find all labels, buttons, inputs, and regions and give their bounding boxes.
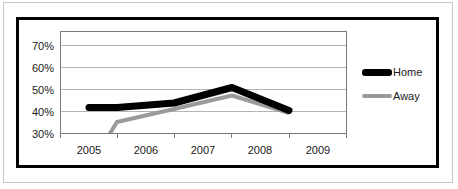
legend-item-away: Away [362, 84, 454, 108]
y-tick-label: 60% [32, 62, 54, 74]
x-axis-ticks [61, 134, 347, 138]
chart-legend: Home Away [362, 60, 454, 108]
chart-figure: 70% 60% 50% 40% 30% 2005 2006 2007 2008 … [0, 0, 458, 189]
y-tick-label: 40% [32, 106, 54, 118]
x-tick-label: 2007 [191, 144, 215, 156]
y-tick-label: 70% [32, 40, 54, 52]
x-axis-tick-labels: 2005 2006 2007 2008 2009 [77, 144, 330, 156]
x-tick-label: 2005 [77, 144, 101, 156]
x-tick-label: 2006 [134, 144, 158, 156]
legend-item-home: Home [362, 60, 454, 84]
away-line-swatch [362, 94, 392, 98]
legend-label-home: Home [393, 66, 422, 78]
y-tick-label: 30% [32, 128, 54, 140]
home-line-swatch [362, 69, 392, 76]
x-tick-label: 2009 [306, 144, 330, 156]
y-tick-label: 50% [32, 84, 54, 96]
y-axis-tick-labels: 70% 60% 50% 40% 30% [32, 40, 54, 140]
x-tick-label: 2008 [248, 144, 272, 156]
legend-label-away: Away [393, 90, 420, 102]
plot-background [60, 31, 347, 133]
